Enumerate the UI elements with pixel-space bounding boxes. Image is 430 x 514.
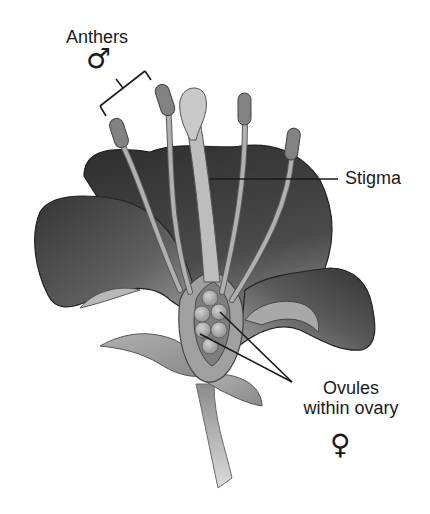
anther xyxy=(153,83,176,118)
anther xyxy=(238,93,251,125)
ovules-label-line2: within ovary xyxy=(297,398,405,418)
anthers-bracket xyxy=(100,71,151,116)
stigma-label: Stigma xyxy=(345,168,401,188)
flower-diagram xyxy=(0,0,430,514)
anther xyxy=(284,127,301,160)
ovules-label: Ovules within ovary xyxy=(297,378,405,418)
male-symbol-icon: ♂ xyxy=(86,46,111,72)
anther xyxy=(108,117,131,150)
female-symbol-icon: ♀ xyxy=(330,432,351,458)
stigma-tip xyxy=(180,88,207,140)
stem xyxy=(196,384,232,488)
ovules-label-line1: Ovules xyxy=(297,378,405,398)
